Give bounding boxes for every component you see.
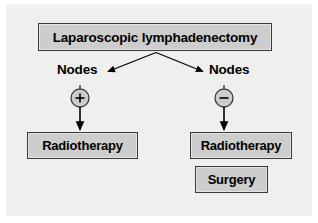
node-radiotherapy-nodes-positive[interactable]: Radiotherapy <box>27 132 138 159</box>
node-surgery-nodes-negative[interactable]: Surgery <box>195 166 268 193</box>
node-radiotherapy-nodes-negative[interactable]: Radiotherapy <box>190 132 292 159</box>
node-laparoscopic-lymphadenectomy[interactable]: Laparoscopic lymphadenectomy <box>38 23 272 51</box>
branch-label-nodes-negative: Nodes <box>209 62 249 77</box>
node-label: Surgery <box>208 172 256 187</box>
diagram-canvas: Laparoscopic lymphadenectomy Nodes Nodes… <box>0 0 318 223</box>
node-label: Radiotherapy <box>201 138 282 153</box>
node-label: Radiotherapy <box>42 138 123 153</box>
node-label: Laparoscopic lymphadenectomy <box>53 30 257 45</box>
connector-root-to-right-nodes <box>156 53 203 72</box>
connector-root-to-left-nodes <box>108 53 156 72</box>
branch-label-nodes-positive: Nodes <box>57 62 97 77</box>
